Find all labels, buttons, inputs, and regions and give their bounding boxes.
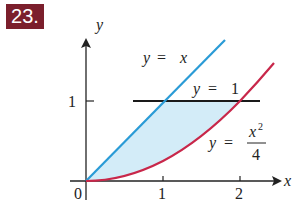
svg-text:1: 1 [231,80,239,97]
svg-text:x: x [248,123,256,140]
svg-text:=: = [224,134,233,151]
svg-text:4: 4 [252,146,260,163]
svg-text:2: 2 [258,121,263,132]
svg-text:=: = [208,80,217,97]
origin-label: 0 [74,185,82,202]
svg-text:y: y [207,134,217,152]
svg-text:y: y [191,80,201,98]
label-y-equals-x-squared-over-4: y = x 2 4 [207,121,266,163]
svg-text:x: x [179,49,187,66]
x-tick-label-1: 1 [158,185,166,202]
label-y-equals-1: y = 1 [191,80,239,98]
shaded-region [86,101,240,181]
x-tick-label-2: 2 [235,185,243,202]
x-axis-label: x [283,172,291,189]
svg-text:=: = [157,49,166,66]
label-y-equals-x: y = x [141,49,187,67]
svg-text:y: y [141,49,151,67]
y-axis-label: y [94,16,104,34]
y-tick-label-1: 1 [68,93,76,110]
graph: y x 0 1 2 1 y = x y = 1 y = x 2 4 [0,0,299,218]
